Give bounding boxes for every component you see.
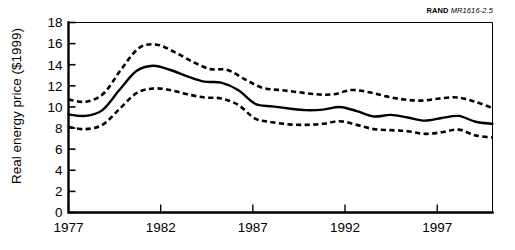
series-line-lower-bound [69, 88, 493, 137]
x-tick-label: 1977 [53, 220, 83, 235]
y-tick-label: 2 [55, 184, 63, 199]
data-series [69, 44, 493, 137]
axis-ticks [69, 23, 438, 213]
y-tick-label: 10 [47, 100, 62, 115]
y-tick-label: 14 [47, 58, 63, 73]
x-tick-label: 1992 [330, 220, 360, 235]
x-tick-label: 1982 [146, 220, 176, 235]
axes [69, 23, 493, 213]
y-tick-label: 6 [55, 142, 63, 157]
y-tick-label: 0 [55, 205, 63, 220]
y-tick-label: 16 [47, 36, 62, 51]
x-tick-label: 1987 [238, 220, 268, 235]
x-tick-label: 1997 [422, 220, 452, 235]
x-tick-labels: 19771982198719921997 [53, 220, 452, 235]
y-tick-label: 12 [47, 79, 62, 94]
y-tick-label: 18 [47, 15, 62, 30]
y-tick-label: 8 [55, 121, 63, 136]
y-tick-labels: 024681012141618 [47, 15, 63, 220]
y-tick-label: 4 [55, 163, 63, 178]
chart-figure: RAND MR1616-2.5 Real energy price ($1999… [0, 0, 515, 250]
series-line-central-estimate [69, 66, 493, 124]
chart-plot-area: 024681012141618 19771982198719921997 [0, 0, 515, 250]
